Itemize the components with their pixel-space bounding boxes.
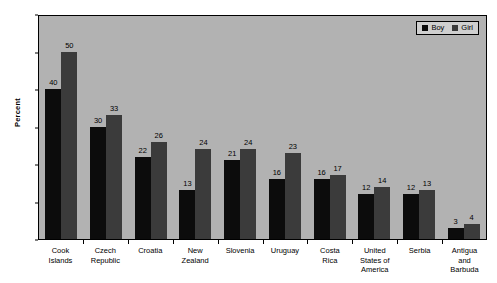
bar-group: 4050 bbox=[39, 16, 84, 239]
x-axis-tick-mark bbox=[263, 240, 264, 244]
x-axis-label: AntiguaandBarbuda bbox=[434, 246, 496, 275]
x-axis-tick-mark bbox=[128, 240, 129, 244]
bar-value-label: 24 bbox=[244, 138, 252, 147]
bar-boy: 30 bbox=[90, 127, 106, 240]
bar-value-label: 26 bbox=[155, 131, 163, 140]
bar-value-label: 30 bbox=[94, 116, 102, 125]
bar-value-label: 13 bbox=[423, 179, 431, 188]
bar-boy: 13 bbox=[179, 190, 195, 239]
bar-girl: 4 bbox=[464, 224, 480, 239]
bar-girl: 13 bbox=[419, 190, 435, 239]
bar-group: 2124 bbox=[218, 16, 263, 239]
bar-boy: 16 bbox=[269, 179, 285, 239]
y-axis-tick-mark bbox=[35, 202, 38, 203]
bar-value-label: 33 bbox=[110, 104, 118, 113]
bar-group: 1617 bbox=[307, 16, 352, 239]
x-axis-tick-mark bbox=[397, 240, 398, 244]
bar-girl: 23 bbox=[285, 153, 301, 239]
y-axis-tick-mark bbox=[35, 127, 38, 128]
bar-group: 1623 bbox=[263, 16, 308, 239]
bar-value-label: 23 bbox=[289, 142, 297, 151]
y-axis-tick-mark bbox=[35, 90, 38, 91]
bar-group: 1324 bbox=[173, 16, 218, 239]
bar-value-label: 16 bbox=[317, 168, 325, 177]
legend-label: Girl bbox=[461, 24, 473, 32]
bar-groups: 40503033222613242124162316171214121334 bbox=[39, 16, 486, 239]
bar-boy: 3 bbox=[448, 228, 464, 239]
bar-value-label: 4 bbox=[470, 213, 474, 222]
bar-boy: 21 bbox=[224, 160, 240, 239]
bar-chart: Percent 40503033222613242124162316171214… bbox=[0, 0, 497, 283]
x-axis-tick-mark bbox=[83, 240, 84, 244]
bar-value-label: 21 bbox=[228, 149, 236, 158]
legend-item: Boy bbox=[422, 24, 444, 32]
plot-area: 40503033222613242124162316171214121334 B… bbox=[38, 15, 487, 240]
bar-group: 1214 bbox=[352, 16, 397, 239]
bar-value-label: 40 bbox=[49, 78, 57, 87]
x-axis-tick-mark bbox=[442, 240, 443, 244]
bar-girl: 33 bbox=[106, 115, 122, 239]
y-axis-tick-mark bbox=[35, 15, 38, 16]
bar-value-label: 16 bbox=[273, 168, 281, 177]
bar-value-label: 14 bbox=[378, 176, 386, 185]
bar-value-label: 13 bbox=[183, 179, 191, 188]
bar-value-label: 50 bbox=[65, 41, 73, 50]
x-axis-tick-mark bbox=[352, 240, 353, 244]
bar-value-label: 12 bbox=[407, 183, 415, 192]
y-axis-tick-mark bbox=[35, 165, 38, 166]
bar-value-label: 3 bbox=[454, 217, 458, 226]
y-axis-tick-mark bbox=[35, 240, 38, 241]
bar-girl: 24 bbox=[195, 149, 211, 239]
legend-item: Girl bbox=[452, 24, 473, 32]
y-axis-tick-mark bbox=[35, 52, 38, 53]
bar-group: 2226 bbox=[128, 16, 173, 239]
bar-girl: 24 bbox=[240, 149, 256, 239]
x-axis-tick-mark bbox=[218, 240, 219, 244]
bar-group: 1213 bbox=[397, 16, 442, 239]
bar-value-label: 22 bbox=[139, 146, 147, 155]
bar-girl: 14 bbox=[374, 187, 390, 240]
bar-boy: 12 bbox=[358, 194, 374, 239]
bar-value-label: 17 bbox=[333, 164, 341, 173]
bar-girl: 26 bbox=[151, 142, 167, 240]
x-axis-tick-mark bbox=[173, 240, 174, 244]
bar-group: 34 bbox=[441, 16, 486, 239]
legend-swatch-icon bbox=[452, 25, 458, 31]
bar-girl: 50 bbox=[61, 52, 77, 240]
legend: BoyGirl bbox=[416, 21, 479, 35]
legend-swatch-icon bbox=[422, 25, 428, 31]
bar-girl: 17 bbox=[330, 175, 346, 239]
bar-boy: 22 bbox=[135, 157, 151, 240]
bar-boy: 12 bbox=[403, 194, 419, 239]
bar-value-label: 12 bbox=[362, 183, 370, 192]
legend-label: Boy bbox=[431, 24, 444, 32]
bar-boy: 40 bbox=[45, 89, 61, 239]
y-axis-title: Percent bbox=[13, 73, 22, 153]
x-axis-tick-mark bbox=[307, 240, 308, 244]
bar-boy: 16 bbox=[314, 179, 330, 239]
bar-group: 3033 bbox=[84, 16, 129, 239]
bar-value-label: 24 bbox=[199, 138, 207, 147]
